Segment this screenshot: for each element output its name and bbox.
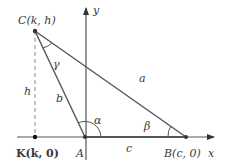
angle-beta-label: β	[143, 120, 150, 133]
side-b	[35, 31, 85, 137]
y-axis-label: y	[92, 4, 100, 17]
point-a	[83, 135, 87, 139]
height-h-label: h	[24, 85, 31, 98]
angle-gamma-label: γ	[53, 58, 60, 71]
side-b-label: b	[56, 92, 63, 105]
angle-beta-arc	[168, 126, 171, 137]
angle-alpha-label: α	[94, 114, 102, 127]
side-a	[35, 31, 186, 137]
point-c-label: C(k, h)	[18, 14, 56, 27]
point-b	[184, 135, 188, 139]
point-b-label: B(c, 0)	[163, 147, 201, 160]
angle-gamma-arc	[43, 43, 52, 48]
point-k-label: K(k, 0)	[16, 147, 59, 160]
side-c-label: c	[126, 142, 132, 155]
point-a-label: A	[75, 147, 84, 160]
point-c	[33, 29, 37, 33]
point-k	[33, 135, 37, 139]
side-a-label: a	[139, 72, 146, 85]
x-axis-label: x	[208, 147, 215, 160]
triangle-diagram: y x C(k, h) A B(c, 0) K(k, 0) a b c h α …	[0, 0, 226, 168]
